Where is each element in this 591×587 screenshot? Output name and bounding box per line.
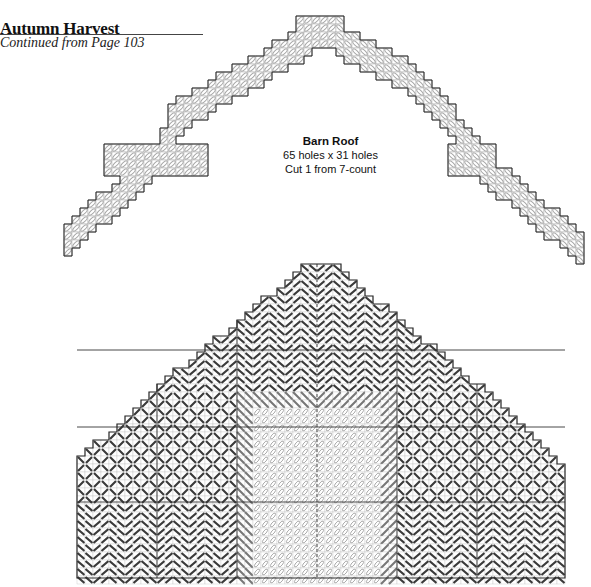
- piece-size: 65 holes x 31 holes: [258, 148, 403, 162]
- barn-roof-caption: Barn Roof 65 holes x 31 holes Cut 1 from…: [258, 134, 403, 176]
- barn-front-chart: [0, 0, 591, 587]
- piece-cut-instruction: Cut 1 from 7-count: [258, 162, 403, 176]
- piece-name: Barn Roof: [258, 134, 403, 148]
- barn-front-piece: [77, 264, 565, 584]
